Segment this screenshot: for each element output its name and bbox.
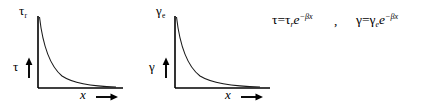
intercept-label: γe — [156, 4, 165, 17]
intercept-symbol: τ — [19, 3, 24, 18]
intercept-subscript: e — [162, 11, 165, 20]
equation-tau-equals: = — [277, 12, 285, 27]
intercept-subscript: r — [25, 11, 28, 20]
equation-separator: , — [334, 13, 337, 29]
x-axis-label: x — [225, 88, 231, 101]
equation-tau-base: e — [294, 12, 300, 27]
equation-gamma-coefficient: γ — [370, 12, 376, 27]
y-axis-label: τ — [13, 60, 18, 73]
intercept-label: τr — [19, 4, 27, 17]
x-axis-right-arrow-icon — [96, 93, 118, 100]
x-axis-right-arrow-icon — [241, 93, 263, 100]
equation-tau-coefficient-subscript: r — [291, 20, 294, 29]
plot-shear-strain-decay: γe γ x — [140, 0, 285, 109]
equation-gamma: γ=γee−βx — [356, 12, 398, 28]
equation-gamma-coefficient-subscript: e — [376, 20, 379, 29]
decay-curve — [40, 17, 117, 87]
y-axis-up-arrow-icon — [163, 58, 170, 79]
y-axis-label: γ — [149, 60, 155, 73]
equation-tau-exponent: −βx — [300, 12, 313, 21]
plot-shear-stress-decay: τr τ x — [0, 0, 145, 109]
equation-tau: τ=τre−βx — [272, 12, 313, 28]
y-axis-up-arrow-icon — [26, 58, 33, 79]
equation-gamma-equals: = — [362, 12, 370, 27]
decay-curve — [177, 17, 261, 87]
x-axis-label: x — [80, 88, 86, 101]
equation-group: τ=τre−βx , γ=γee−βx — [272, 12, 435, 38]
equation-tau-coefficient: τ — [285, 12, 290, 27]
intercept-symbol: γ — [156, 3, 162, 18]
exponential-decay-figure: τr τ x γe γ x τ=τre−βx , γ=γee−βx — [0, 0, 435, 109]
equation-gamma-exponent: −βx — [385, 12, 398, 21]
